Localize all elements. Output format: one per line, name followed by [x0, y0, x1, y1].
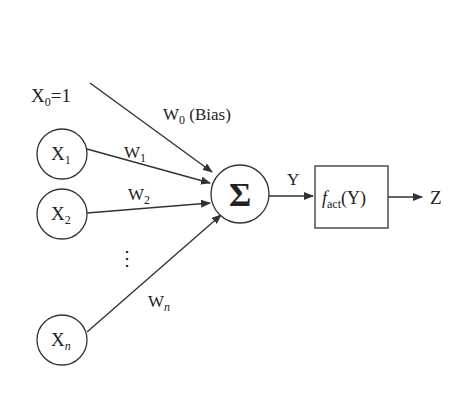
weight-w1-label: W1	[124, 143, 146, 165]
wn-arrow	[87, 215, 221, 332]
output-label: Z	[430, 187, 442, 208]
sigma-icon: Σ	[229, 176, 251, 213]
input-node-x1: X1	[37, 129, 87, 179]
w1-arrow	[87, 149, 210, 183]
input-node-xn: Xn	[37, 315, 87, 365]
activation-function-box: fact(Y)	[315, 166, 388, 228]
weight-wn-label: Wn	[148, 292, 170, 314]
summation-node: Σ	[211, 165, 269, 223]
bias-arrow	[90, 83, 212, 172]
weight-w2-label: W2	[128, 185, 150, 207]
ellipsis-more-inputs: ⋮	[117, 247, 137, 269]
neuron-diagram: X0=1 W0 (Bias) X1 W1 X2 W2 ⋮ Xn Wn Σ Y f…	[0, 0, 472, 396]
input-node-x2: X2	[37, 189, 87, 239]
weight-w0-label: W0 (Bias)	[163, 105, 231, 127]
bias-input-label: X0=1	[31, 85, 71, 109]
sum-output-label: Y	[287, 170, 299, 189]
